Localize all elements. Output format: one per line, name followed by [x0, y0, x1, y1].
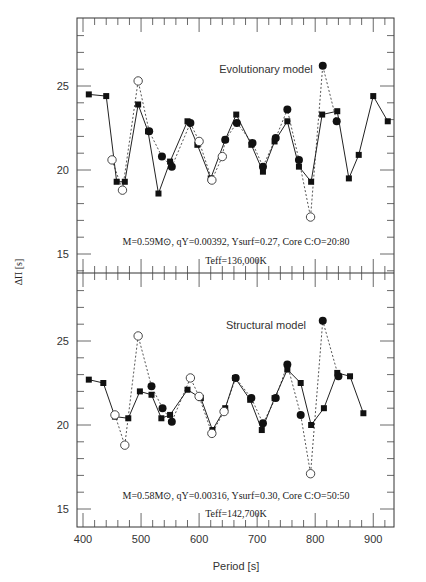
- observed-open-circle: [111, 411, 119, 419]
- observed-filled-circle: [145, 127, 153, 135]
- observed-open-circle: [306, 213, 314, 221]
- observed-filled-circle: [168, 418, 176, 426]
- bottom-panel-axes: 152025: [57, 273, 394, 527]
- model-square-marker: [86, 91, 92, 97]
- model-square-marker: [155, 191, 161, 197]
- model-square-marker: [360, 410, 366, 416]
- model-square-marker: [158, 415, 164, 421]
- observed-filled-circle: [232, 374, 240, 382]
- model-square-marker: [259, 427, 265, 433]
- observed-open-circle: [134, 77, 142, 85]
- observed-filled-circle: [259, 163, 267, 171]
- observed-filled-circle: [159, 404, 167, 412]
- model-square-marker: [125, 415, 131, 421]
- model-square-marker: [347, 373, 353, 379]
- observed-filled-circle: [186, 119, 194, 127]
- observed-filled-circle: [168, 163, 176, 171]
- observed-filled-circle: [233, 119, 241, 127]
- y-tick-label: 15: [57, 503, 69, 515]
- x-tick-label: 800: [306, 533, 324, 545]
- model-square-marker: [148, 392, 154, 398]
- observed-open-circle: [134, 332, 142, 340]
- observed-filled-circle: [221, 136, 229, 144]
- y-tick-label: 25: [57, 80, 69, 92]
- model-square-marker: [100, 380, 106, 386]
- x-tick-label: 400: [74, 533, 92, 545]
- y-tick-label: 25: [57, 335, 69, 347]
- effective-temperature: Teff=136,000K: [205, 255, 267, 266]
- panel-title: Evolutionary model: [219, 63, 313, 75]
- model-square-marker: [137, 388, 143, 394]
- model-square-marker: [233, 112, 239, 118]
- model-square-marker: [284, 118, 290, 124]
- model-square-marker: [385, 118, 391, 124]
- model-square-marker: [296, 164, 302, 170]
- observed-open-circle: [186, 374, 194, 382]
- model-square-marker: [86, 377, 92, 383]
- model-square-marker: [370, 93, 376, 99]
- model-square-marker: [308, 179, 314, 185]
- observed-open-circle: [208, 429, 216, 437]
- effective-temperature: Teff=142,700K: [205, 508, 267, 519]
- model-square-marker: [334, 108, 340, 114]
- model-square-marker: [135, 101, 141, 107]
- observed-filled-circle: [259, 419, 267, 427]
- observed-filled-circle: [283, 361, 291, 369]
- observed-open-circle: [118, 186, 126, 194]
- x-tick-label: 500: [132, 533, 150, 545]
- model-square-marker: [346, 175, 352, 181]
- observed-filled-circle: [319, 62, 327, 70]
- model-square-marker: [298, 380, 304, 386]
- model-square-marker: [319, 112, 325, 118]
- x-tick-label: 600: [190, 533, 208, 545]
- y-tick-label: 20: [57, 164, 69, 176]
- panel-title: Structural model: [226, 319, 306, 331]
- model-square-marker: [321, 405, 327, 411]
- x-axis-label: Period [s]: [213, 560, 259, 572]
- model-square-marker: [114, 179, 120, 185]
- model-square-marker: [184, 387, 190, 393]
- observed-open-circle: [208, 176, 216, 184]
- x-tick-label: 700: [248, 533, 266, 545]
- model-square-marker: [122, 179, 128, 185]
- observed-filled-circle: [297, 411, 305, 419]
- observed-open-circle: [195, 392, 203, 400]
- y-tick-label: 20: [57, 419, 69, 431]
- model-square-marker: [308, 422, 314, 428]
- observed-filled-circle: [247, 394, 255, 402]
- observed-open-circle: [108, 156, 116, 164]
- x-tick-label: 900: [364, 533, 382, 545]
- model-square-marker: [167, 412, 173, 418]
- observed-open-circle: [195, 137, 203, 145]
- model-square-marker: [103, 93, 109, 99]
- observed-filled-circle: [249, 139, 257, 147]
- model-parameters: M=0.58M⊙, qY=0.00316, Ysurf=0.30, Core C…: [123, 490, 350, 501]
- observed-filled-circle: [283, 106, 291, 114]
- observed-filled-circle: [147, 382, 155, 390]
- observed-filled-circle: [319, 317, 327, 325]
- observed-open-circle: [218, 152, 226, 160]
- observed-filled-circle: [272, 394, 280, 402]
- observed-filled-circle: [334, 372, 342, 380]
- model-square-marker: [356, 152, 362, 158]
- observed-filled-circle: [158, 153, 166, 161]
- observed-open-circle: [306, 470, 314, 478]
- observed-filled-circle: [295, 156, 303, 164]
- observed-open-circle: [220, 407, 228, 415]
- observed-open-circle: [121, 441, 129, 449]
- observed-filled-circle: [272, 134, 280, 142]
- y-axis-label: ΔΠ [s]: [13, 259, 24, 286]
- model-parameters: M=0.59M⊙, qY=0.00392, Ysurf=0.27, Core C…: [123, 236, 350, 247]
- observed-dotted-line: [115, 321, 338, 474]
- observed-filled-circle: [333, 117, 341, 125]
- y-tick-label: 15: [57, 248, 69, 260]
- period-spacing-figure: 152025152025400500600700800900Period [s]…: [0, 0, 426, 582]
